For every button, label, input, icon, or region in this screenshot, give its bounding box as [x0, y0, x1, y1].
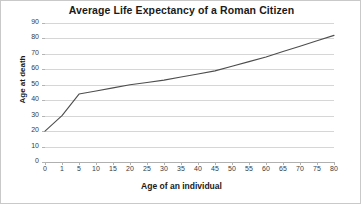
x-axis-tick-mark — [147, 162, 148, 165]
x-axis-title: Age of an individual — [1, 181, 361, 191]
y-axis-tick-label: 30 — [9, 111, 39, 118]
x-axis-tick-mark — [266, 162, 267, 165]
y-axis-tick-label: 70 — [9, 49, 39, 56]
x-axis-tick-mark — [283, 162, 284, 165]
y-axis-tick-label: 40 — [9, 95, 39, 102]
x-axis-tick-mark — [79, 162, 80, 165]
x-axis-tick-mark — [232, 162, 233, 165]
y-axis-tick-label: 60 — [9, 64, 39, 71]
y-axis-tick-label: 0 — [9, 157, 39, 164]
x-axis-tick-label: 80 — [324, 165, 344, 172]
x-axis-tick-mark — [215, 162, 216, 165]
x-axis-tick-mark — [62, 162, 63, 165]
x-axis-tick-mark — [130, 162, 131, 165]
x-axis-tick-mark — [113, 162, 114, 165]
x-axis-tick-mark — [96, 162, 97, 165]
x-axis-tick-mark — [300, 162, 301, 165]
x-axis-tick-mark — [198, 162, 199, 165]
x-axis-tick-mark — [164, 162, 165, 165]
x-axis-tick-mark — [249, 162, 250, 165]
x-axis-tick-mark — [334, 162, 335, 165]
plot-area — [45, 23, 334, 162]
x-axis-tick-mark — [317, 162, 318, 165]
chart-title: Average Life Expectancy of a Roman Citiz… — [1, 4, 361, 16]
x-axis-tick-mark — [181, 162, 182, 165]
data-series-line — [45, 23, 334, 162]
chart-container: Average Life Expectancy of a Roman Citiz… — [0, 0, 361, 204]
y-axis-tick-label: 80 — [9, 33, 39, 40]
y-axis-tick-label: 20 — [9, 126, 39, 133]
gridline — [45, 162, 334, 163]
y-axis-tick-label: 90 — [9, 18, 39, 25]
y-axis-tick-label: 50 — [9, 80, 39, 87]
x-axis-tick-mark — [45, 162, 46, 165]
y-axis-tick-label: 10 — [9, 142, 39, 149]
